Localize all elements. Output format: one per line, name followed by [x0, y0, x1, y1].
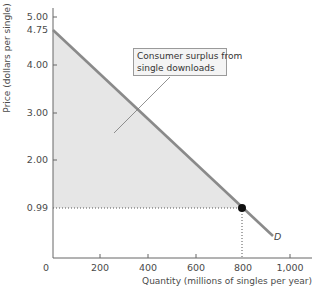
origin-label: 0 [43, 262, 49, 273]
x-tick-label: 200 [91, 262, 109, 273]
consumer-surplus-callout: Consumer surplus from single downloads [133, 48, 227, 76]
y-tick-label: 4.00 [27, 59, 48, 70]
y-tick-label: 2.00 [27, 154, 48, 165]
callout-line-2: single downloads [137, 62, 223, 74]
x-tick-label: 1,000 [276, 262, 303, 273]
y-axis-title: Price (dollars per single) [2, 3, 12, 112]
callout-line-1: Consumer surplus from [137, 50, 223, 62]
x-ticks [100, 254, 290, 258]
x-tick-label: 400 [139, 262, 157, 273]
x-tick-label: 600 [187, 262, 205, 273]
x-axis-title: Quantity (millions of singles per year) [142, 276, 312, 286]
y-tick-label: 3.00 [27, 107, 48, 118]
y-tick-label: 4.75 [27, 24, 48, 35]
demand-curve-label: D [274, 231, 281, 242]
y-tick-label: 5.00 [27, 11, 48, 22]
demand-chart: 5.00 4.75 4.00 3.00 2.00 0.99 0 200 400 … [0, 0, 318, 295]
y-tick-label: 0.99 [27, 202, 48, 213]
x-tick-label: 800 [234, 262, 252, 273]
equilibrium-point [238, 204, 246, 212]
